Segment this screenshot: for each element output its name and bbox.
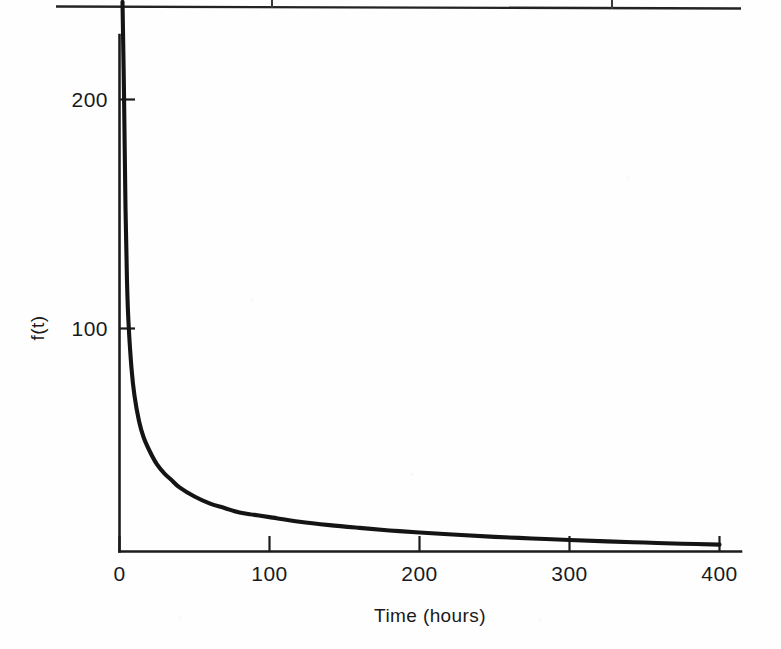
decay-curve-figure: 200 100 0 100 200 300 400 Time (hours) f… [0,0,781,649]
decay-curve [123,2,720,545]
figure-page: 200 100 0 100 200 300 400 Time (hours) f… [0,0,781,649]
x-tick-label-300: 300 [551,562,588,585]
x-tick-label-400: 400 [701,562,738,585]
y-tick-label-200: 200 [71,88,108,111]
x-tick-label-200: 200 [401,562,438,585]
paper-speckle [179,177,630,622]
y-tick-label-100: 100 [71,317,108,340]
plot-axes [120,35,742,552]
x-tick-label-0: 0 [113,562,125,585]
x-tick-label-100: 100 [251,562,288,585]
y-axis-title: f(t) [27,316,48,341]
x-axis-title: Time (hours) [374,605,486,626]
